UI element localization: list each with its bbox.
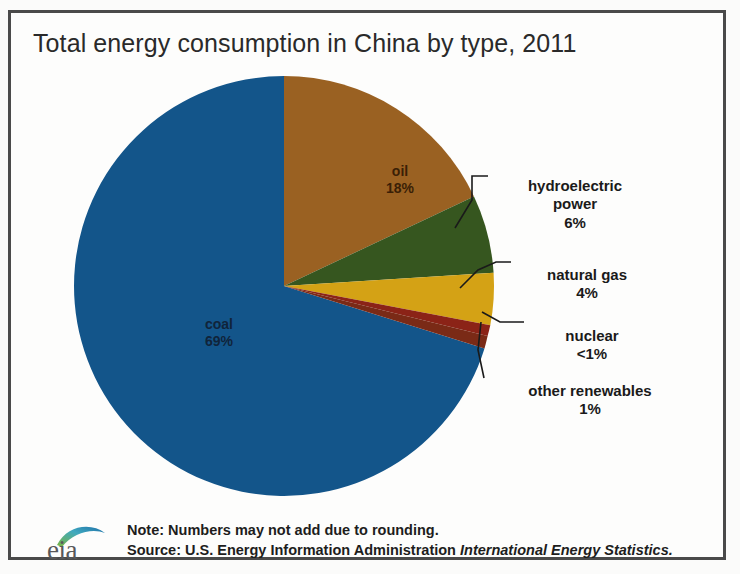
eia-wordmark-text: eia xyxy=(47,537,77,564)
pie-callout-other-renewables-value: 1% xyxy=(579,400,601,417)
pie-callout-nuclear-value: <1% xyxy=(577,345,607,362)
pie-callout-hydroelectric-power: hydroelectric power 6% xyxy=(500,177,650,232)
pie-callout-hydroelectric-power-line1: hydroelectric xyxy=(528,177,622,194)
footer-source: Source: U.S. Energy Information Administ… xyxy=(127,542,673,558)
footer-note: Note: Numbers may not add due to roundin… xyxy=(127,522,439,538)
pie-callout-other-renewables: other renewables 1% xyxy=(495,382,685,419)
pie-label-oil-value: 18% xyxy=(386,180,414,196)
pie-chart: coal 69% oil 18% xyxy=(69,71,499,501)
pie-callout-natural-gas-name: natural gas xyxy=(547,266,627,283)
pie-label-coal-value: 69% xyxy=(205,333,233,349)
pie-callout-hydroelectric-power-line2: power xyxy=(553,195,597,212)
footer-source-prefix: Source: U.S. Energy Information Administ… xyxy=(127,542,460,558)
pie-label-coal-name: coal xyxy=(205,316,233,332)
pie-svg xyxy=(69,71,499,501)
pie-label-coal: coal 69% xyxy=(179,316,259,350)
pie-callout-natural-gas-value: 4% xyxy=(576,284,598,301)
pie-callout-hydroelectric-power-value: 6% xyxy=(564,214,586,231)
page-title: Total energy consumption in China by typ… xyxy=(33,29,576,58)
figure-footer: eia Note: Numbers may not add due to rou… xyxy=(45,519,715,567)
pie-label-oil: oil 18% xyxy=(365,163,435,197)
pie-callout-nuclear: nuclear <1% xyxy=(536,327,648,364)
figure-frame: Total energy consumption in China by typ… xyxy=(8,10,726,560)
pie-callout-natural-gas: natural gas 4% xyxy=(523,266,651,303)
figure-page: Total energy consumption in China by typ… xyxy=(0,0,740,574)
eia-logo-icon: eia xyxy=(45,521,121,563)
footer-source-publication: International Energy Statistics. xyxy=(460,542,673,558)
pie-callout-nuclear-name: nuclear xyxy=(565,327,618,344)
pie-callout-other-renewables-name: other renewables xyxy=(528,382,651,399)
pie-label-oil-name: oil xyxy=(392,163,408,179)
